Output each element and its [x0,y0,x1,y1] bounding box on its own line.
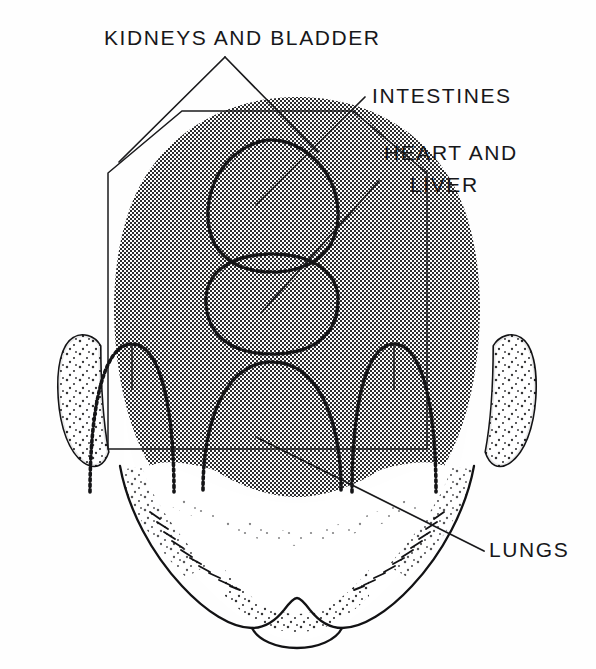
label-heart-and-liver-line1: HEART AND [384,141,518,164]
label-intestines: INTESTINES [372,84,512,107]
head-reflexology-diagram: KIDNEYS AND BLADDER INTESTINES HEART AND… [0,0,596,669]
figure-root: KIDNEYS AND BLADDER INTESTINES HEART AND… [0,0,596,669]
label-kidneys-and-bladder: KIDNEYS AND BLADDER [104,26,381,49]
label-heart-and-liver-line2: LIVER [410,173,479,196]
label-lungs: LUNGS [489,538,569,561]
